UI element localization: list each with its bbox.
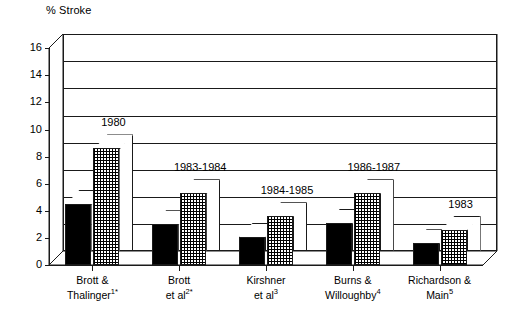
y-tick-label-6: 6 bbox=[16, 178, 42, 189]
gridline-10 bbox=[63, 116, 497, 117]
x-axis-label-3-line1: Burns & bbox=[325, 274, 381, 286]
gridline-14 bbox=[63, 61, 497, 62]
x-axis-label-3-superscript: 4 bbox=[376, 287, 380, 296]
bar-hatched-3 bbox=[354, 193, 380, 265]
y-tick-label-8: 8 bbox=[16, 151, 42, 162]
x-axis-label-1: Brottet al2* bbox=[166, 274, 193, 301]
x-axis-label-0: Brott &Thalinger1* bbox=[67, 274, 118, 301]
x-tick-2 bbox=[266, 265, 267, 271]
x-axis-label-2-line2: et al3 bbox=[246, 286, 285, 301]
y-axis-line bbox=[49, 48, 50, 266]
x-tick-0 bbox=[92, 265, 93, 271]
x-axis-label-2: Kirshneret al3 bbox=[246, 274, 285, 301]
x-axis-label-4-line2: Main5 bbox=[408, 286, 471, 301]
bar-hatched-0-face bbox=[93, 148, 119, 265]
bar-solid-3 bbox=[326, 223, 352, 265]
x-axis-label-4: Richardson &Main5 bbox=[408, 274, 471, 301]
year-label-0: 1980 bbox=[101, 116, 125, 128]
x-axis-label-0-line1: Brott & bbox=[67, 274, 118, 286]
bar-hatched-2 bbox=[267, 216, 293, 265]
year-label-3: 1986-1987 bbox=[347, 161, 400, 173]
x-axis-label-3-line2: Willoughby4 bbox=[325, 286, 381, 301]
x-axis-label-1-line2: et al2* bbox=[166, 286, 193, 301]
x-axis-label-1-line1: Brott bbox=[166, 274, 193, 286]
bar-hatched-2-face bbox=[267, 216, 293, 265]
x-axis-label-3: Burns &Willoughby4 bbox=[325, 274, 381, 301]
x-axis-label-0-superscript: 1* bbox=[111, 287, 118, 296]
x-axis-label-1-superscript: 2* bbox=[186, 287, 193, 296]
bar-solid-4-face bbox=[413, 243, 439, 265]
bar-hatched-1-face bbox=[180, 193, 206, 265]
y-tick-label-2: 2 bbox=[16, 232, 42, 243]
bar-solid-3-face bbox=[326, 223, 352, 265]
y-tick-label-4: 4 bbox=[16, 205, 42, 216]
x-tick-1 bbox=[179, 265, 180, 271]
bar-solid-0-face bbox=[65, 204, 91, 265]
gridline-12 bbox=[63, 88, 497, 89]
bar-hatched-0-side bbox=[119, 134, 133, 251]
bar-solid-0 bbox=[65, 204, 91, 265]
year-label-1: 1983-1984 bbox=[174, 161, 227, 173]
y-tick-label-0: 0 bbox=[16, 259, 42, 270]
y-tick-label-16: 16 bbox=[16, 42, 42, 53]
year-label-2: 1984-1985 bbox=[261, 184, 314, 196]
bar-hatched-1 bbox=[180, 193, 206, 265]
y-tick-label-10: 10 bbox=[16, 124, 42, 135]
x-axis-label-4-superscript: 5 bbox=[449, 287, 453, 296]
bar-solid-1 bbox=[152, 224, 178, 265]
bar-solid-2 bbox=[239, 237, 265, 265]
bar-solid-1-face bbox=[152, 224, 178, 265]
x-tick-4 bbox=[440, 265, 441, 271]
x-axis-label-2-superscript: 3 bbox=[274, 287, 278, 296]
bar-hatched-3-face bbox=[354, 193, 380, 265]
x-axis-label-2-line1: Kirshner bbox=[246, 274, 285, 286]
plot-area: 1614121086420 19801983-19841984-19851986… bbox=[0, 0, 521, 315]
stroke-bar-chart: % Stroke 1614121086420 19801983-19841984… bbox=[0, 0, 521, 315]
y-tick-label-14: 14 bbox=[16, 69, 42, 80]
bar-hatched-4 bbox=[441, 230, 467, 265]
x-axis-label-0-line2: Thalinger1* bbox=[67, 286, 118, 301]
x-tick-3 bbox=[353, 265, 354, 271]
bar-hatched-0 bbox=[93, 148, 119, 265]
year-label-4: 1983 bbox=[448, 198, 472, 210]
bar-hatched-4-face bbox=[441, 230, 467, 265]
bar-solid-4 bbox=[413, 243, 439, 265]
gridline-16 bbox=[63, 34, 497, 35]
bar-solid-2-face bbox=[239, 237, 265, 265]
y-tick-label-12: 12 bbox=[16, 96, 42, 107]
x-axis-label-4-line1: Richardson & bbox=[408, 274, 471, 286]
